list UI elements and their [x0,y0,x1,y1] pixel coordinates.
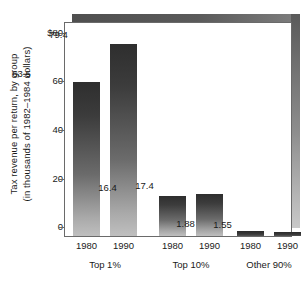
bar-value-label-top1-1990: 79.4 [41,30,76,40]
group-label-top1: Top 1% [68,259,142,270]
group-label-other90: Other 90% [232,259,306,270]
x-label-other90-1990: 1990 [269,240,306,251]
x-label-other90-1980: 1980 [232,240,269,251]
x-label-top1-1980: 1980 [68,240,105,251]
bar-other90-1980[interactable] [237,231,264,236]
bar-series-container [65,23,291,236]
bar-top1-1980[interactable] [73,82,100,236]
x-axis-group-labels: Top 1% Top 10% Other 90% [65,259,291,273]
x-axis-year-labels: 1980 1990 1980 1990 1980 1990 [65,240,291,254]
x-label-top10-1990: 1990 [191,240,228,251]
bar-value-label-top10-1990: 17.4 [127,181,162,191]
x-label-top1-1990: 1990 [105,240,142,251]
bar-value-label-top1-1980: 63.5 [4,69,39,79]
bar-value-label-other90-1990: 1.55 [205,220,240,230]
bar-top10-1980[interactable] [159,196,186,236]
bar-chart-figure: Tax revenue per return, by group (in tho… [0,0,308,283]
x-label-top10-1980: 1980 [154,240,191,251]
bar-top1-1990[interactable] [110,44,137,236]
group-label-top10: Top 10% [154,259,228,270]
plot-shadow-right [291,14,300,228]
bar-value-label-other90-1980: 1.88 [168,219,203,229]
bar-other90-1990[interactable] [274,232,301,236]
bar-value-label-top10-1980: 16.4 [90,183,125,193]
